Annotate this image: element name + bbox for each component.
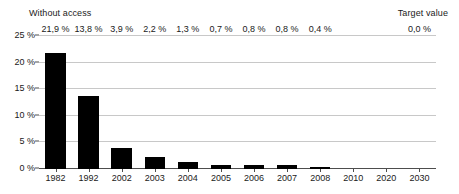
bar-slot: 0,8 % (271, 36, 304, 169)
bar: 1,3 % (178, 162, 199, 169)
x-axis-slot: 2003 (138, 169, 171, 191)
bar-slot (337, 36, 370, 169)
x-axis-tick-mark (221, 169, 222, 172)
bar-value-label: 2,2 % (143, 24, 166, 34)
x-axis-tick-label: 2010 (343, 173, 363, 183)
bar-value-label: 0,7 % (209, 24, 232, 34)
x-axis-tick-mark (419, 169, 420, 172)
x-axis: 1982199220022003200420052006200720082010… (39, 169, 436, 191)
plot-area: 0 %5 %10 %15 %20 %25 % 21,9 %13,8 %3,9 %… (39, 36, 436, 169)
x-axis-tick-mark (254, 169, 255, 172)
x-axis-tick-label: 1992 (79, 173, 99, 183)
y-axis-tick-label: 25 % (14, 30, 35, 40)
x-axis-tick-mark (386, 169, 387, 172)
x-axis-tick-label: 2030 (409, 173, 429, 183)
x-axis-tick-mark (89, 169, 90, 172)
x-axis-tick-label: 2020 (376, 173, 396, 183)
bar-value-label: 13,8 % (75, 24, 103, 34)
x-axis-slot: 2005 (204, 169, 237, 191)
x-axis-tick-mark (320, 169, 321, 172)
x-axis-tick-mark (122, 169, 123, 172)
y-axis-tick-label: 0 % (19, 163, 35, 173)
x-axis-slot: 1982 (39, 169, 72, 191)
bar-slot: 13,8 % (72, 36, 105, 169)
bar: 2,2 % (145, 157, 166, 169)
bar-slot: 0,8 % (237, 36, 270, 169)
x-axis-slot: 2007 (271, 169, 304, 191)
y-axis-tick-label: 15 % (14, 83, 35, 93)
bar-value-label: 1,3 % (176, 24, 199, 34)
bar-slot: 1,3 % (171, 36, 204, 169)
x-axis-slot: 2002 (105, 169, 138, 191)
x-axis-slot: 2006 (238, 169, 271, 191)
x-axis-tick-label: 2005 (211, 173, 231, 183)
x-axis-tick-label: 2004 (178, 173, 198, 183)
bar-value-label: 0,4 % (309, 24, 332, 34)
bar-value-label: 21,9 % (42, 24, 70, 34)
bar-value-label: 0,8 % (242, 24, 265, 34)
x-axis-tick-label: 1982 (46, 173, 66, 183)
x-axis-tick-label: 2003 (145, 173, 165, 183)
y-axis-tick-label: 10 % (14, 110, 35, 120)
x-axis-tick-mark (56, 169, 57, 172)
x-axis-tick-label: 2006 (244, 173, 264, 183)
x-axis-slot: 2010 (337, 169, 370, 191)
bar-value-label: 0,0 % (408, 24, 431, 34)
bar: 13,8 % (78, 96, 99, 169)
bar: 21,9 % (45, 53, 66, 170)
bar-value-label: 0,8 % (276, 24, 299, 34)
y-axis-tick-label: 20 % (14, 57, 35, 67)
bar-slot (370, 36, 403, 169)
x-axis-slot: 2004 (171, 169, 204, 191)
bar-slot: 2,2 % (138, 36, 171, 169)
bar-slot: 0,4 % (304, 36, 337, 169)
chart-annotation-right: Target value (398, 8, 448, 18)
x-axis-tick-mark (188, 169, 189, 172)
x-axis-slot: 2030 (403, 169, 436, 191)
x-axis-tick-mark (287, 169, 288, 172)
bar-slot: 3,9 % (105, 36, 138, 169)
bar-slot: 0,7 % (204, 36, 237, 169)
bar-chart-figure: Without access Target value 0 %5 %10 %15… (0, 0, 459, 194)
x-axis-tick-label: 2008 (310, 173, 330, 183)
x-axis-tick-mark (155, 169, 156, 172)
y-axis-tick-label: 5 % (19, 136, 35, 146)
bar: 3,9 % (111, 148, 132, 169)
bar-slot: 0,0 % (403, 36, 436, 169)
bar-series: 21,9 %13,8 %3,9 %2,2 %1,3 %0,7 %0,8 %0,8… (39, 36, 436, 169)
bar-slot: 21,9 % (39, 36, 72, 169)
x-axis-slot: 1992 (72, 169, 105, 191)
x-axis-tick-label: 2007 (277, 173, 297, 183)
x-axis-tick-mark (353, 169, 354, 172)
x-axis-slot: 2008 (304, 169, 337, 191)
chart-annotation-left: Without access (29, 8, 91, 18)
x-axis-tick-label: 2002 (112, 173, 132, 183)
x-axis-slot: 2020 (370, 169, 403, 191)
bar-value-label: 3,9 % (110, 24, 133, 34)
